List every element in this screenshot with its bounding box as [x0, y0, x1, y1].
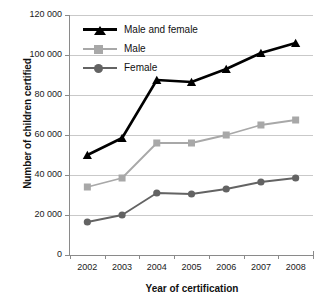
legend-item-female: Female [83, 58, 198, 77]
data-point-circle [223, 185, 230, 192]
line-chart: Number of children certified 020 00040 0… [0, 0, 330, 303]
data-point-square [84, 184, 91, 191]
legend: Male and female Male Female [83, 20, 198, 77]
data-point-square [153, 140, 160, 147]
data-point-square [119, 175, 126, 182]
legend-key-female [83, 62, 117, 74]
data-point-circle [188, 190, 195, 197]
data-point-circle [292, 174, 299, 181]
data-point-circle [257, 178, 264, 185]
data-point-circle [84, 218, 91, 225]
data-point-circle [153, 189, 160, 196]
data-point-circle [118, 211, 125, 218]
data-point-square [292, 117, 299, 124]
circle-marker-icon [94, 64, 103, 73]
legend-label-male-and-female: Male and female [124, 24, 198, 35]
x-axis-title: Year of certification [70, 283, 314, 294]
legend-item-male-and-female: Male and female [83, 20, 198, 39]
square-marker-icon [94, 45, 103, 54]
legend-item-male: Male [83, 39, 198, 58]
legend-label-male: Male [124, 43, 146, 54]
legend-key-male-and-female [83, 24, 117, 36]
triangle-marker-icon [94, 26, 106, 35]
data-point-square [188, 140, 195, 147]
series-female [84, 174, 299, 225]
data-point-square [257, 122, 264, 129]
data-point-square [223, 132, 230, 139]
series-male [84, 117, 299, 191]
legend-label-female: Female [124, 62, 157, 73]
legend-key-male [83, 43, 117, 55]
